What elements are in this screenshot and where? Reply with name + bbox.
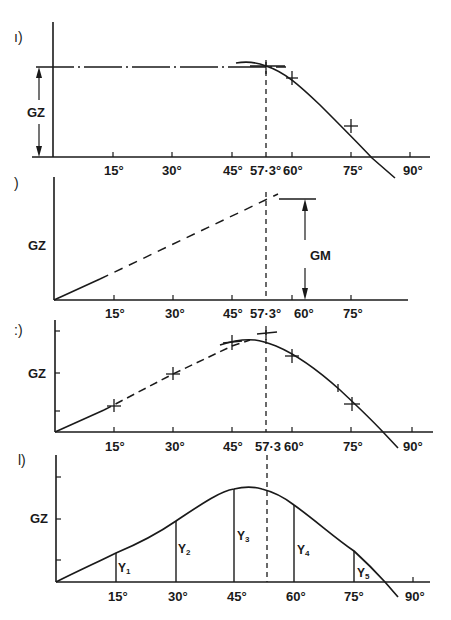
initial-slope-solid xyxy=(54,279,100,300)
svg-text:45°: 45° xyxy=(223,306,243,321)
x-tick-labels: 15° 30° 45° 57·3 60° 75° 90° xyxy=(105,439,423,454)
svg-text:Y5: Y5 xyxy=(357,566,370,581)
panel-d-label: l) xyxy=(18,452,26,468)
arrow-up-icon xyxy=(302,199,308,211)
svg-text:30°: 30° xyxy=(165,439,185,454)
gz-label: GZ xyxy=(28,366,46,381)
svg-text:60°: 60° xyxy=(294,306,314,321)
arrow-down-icon xyxy=(36,146,42,157)
svg-text:57·3°: 57·3° xyxy=(250,306,281,321)
panel-c-label: :) xyxy=(14,322,23,338)
svg-text:45°: 45° xyxy=(227,589,247,604)
svg-text:90°: 90° xyxy=(403,163,423,178)
x-tick-labels: 15° 30° 45° 60° 75° 90° xyxy=(108,589,425,604)
gm-label: GM xyxy=(310,248,331,263)
svg-text:Y3: Y3 xyxy=(237,529,250,544)
svg-text:45°: 45° xyxy=(223,163,243,178)
svg-text:30°: 30° xyxy=(162,163,182,178)
gz-label: GZ xyxy=(28,238,46,253)
svg-text:Y4: Y4 xyxy=(297,543,310,558)
svg-text:45°: 45° xyxy=(223,439,243,454)
svg-text:75°: 75° xyxy=(344,589,364,604)
panel-b-label: ) xyxy=(14,175,19,191)
svg-text:15°: 15° xyxy=(105,439,125,454)
svg-text:60°: 60° xyxy=(286,589,306,604)
svg-text:57·3°: 57·3° xyxy=(250,163,281,178)
cross-markers xyxy=(107,326,360,412)
gz-curve xyxy=(56,487,398,597)
panel-a-label: ı) xyxy=(14,29,23,45)
panel-a: ı) GZ 15° 3 xyxy=(14,22,430,178)
svg-text:30°: 30° xyxy=(168,589,188,604)
gz-label: GZ xyxy=(27,105,45,120)
panel-c: :) xyxy=(14,320,433,454)
svg-text:15°: 15° xyxy=(108,589,128,604)
x-tick-labels: 15° 30° 45° 57·3° 60° 75° 90° xyxy=(104,163,423,178)
svg-text:90°: 90° xyxy=(405,589,425,604)
svg-text:30°: 30° xyxy=(165,306,185,321)
tangent-dashed-line xyxy=(100,194,278,279)
initial-slope-solid xyxy=(55,410,104,432)
svg-text:90°: 90° xyxy=(403,439,423,454)
ordinate-labels: Y1 Y2 Y3 Y4 Y5 xyxy=(118,529,370,581)
svg-text:60°: 60° xyxy=(283,163,303,178)
panel-b: ) GM GZ 15° 30° 45° 57·3° 60° 7 xyxy=(14,175,408,321)
arrow-down-icon xyxy=(302,288,308,300)
tangent-dashed-line xyxy=(104,340,250,410)
svg-text:15°: 15° xyxy=(104,163,124,178)
cross-markers xyxy=(250,60,358,133)
svg-text:60°: 60° xyxy=(284,439,304,454)
svg-text:75°: 75° xyxy=(343,163,363,178)
x-tick-labels: 15° 30° 45° 57·3° 60° 75° xyxy=(105,306,363,321)
panel-d: l) Y1 Y2 Y3 Y4 Y5 GZ 15° xyxy=(18,452,430,604)
arrow-up-icon xyxy=(36,67,42,78)
gz-label: GZ xyxy=(30,511,48,526)
gz-curves-figure: ı) GZ 15° 3 xyxy=(0,0,451,620)
gz-curve xyxy=(236,62,395,178)
svg-text:Y1: Y1 xyxy=(118,561,131,576)
svg-text:75°: 75° xyxy=(343,439,363,454)
svg-text:Y2: Y2 xyxy=(178,542,191,557)
svg-text:15°: 15° xyxy=(105,306,125,321)
svg-text:57·3: 57·3 xyxy=(255,439,281,454)
svg-text:75°: 75° xyxy=(343,306,363,321)
